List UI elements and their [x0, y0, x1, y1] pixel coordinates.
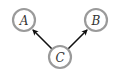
- node-c-label: C: [55, 51, 64, 65]
- node-a: A: [13, 9, 35, 31]
- diagram-canvas: A B C: [0, 0, 120, 74]
- node-c: C: [49, 46, 71, 68]
- edge-c-to-a: [33, 30, 52, 49]
- node-b: B: [85, 9, 107, 31]
- node-b-label: B: [91, 14, 101, 28]
- node-a-label: A: [19, 14, 29, 28]
- edge-c-to-b: [68, 30, 87, 49]
